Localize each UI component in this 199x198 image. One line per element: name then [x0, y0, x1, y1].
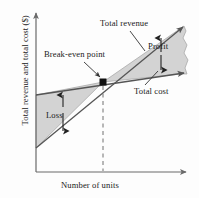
total-revenue-leader-line — [130, 31, 145, 51]
x-axis-label: Number of units — [61, 181, 119, 190]
total-revenue-label: Total revenue — [100, 19, 148, 28]
break-even-point-label: Break-even point — [44, 50, 105, 59]
break-even-point-marker — [100, 79, 107, 86]
total-cost-label: Total cost — [134, 87, 169, 96]
break-even-chart-figure: Total revenue and total cost ($) Number … — [0, 0, 199, 198]
y-axis-label: Total revenue and total cost ($) — [21, 0, 30, 140]
chart-canvas — [0, 0, 199, 198]
profit-label: Profit — [148, 42, 168, 51]
loss-label: Loss — [46, 111, 63, 120]
break-even-leader-line — [84, 62, 100, 77]
profit-region-shading — [103, 26, 188, 82]
